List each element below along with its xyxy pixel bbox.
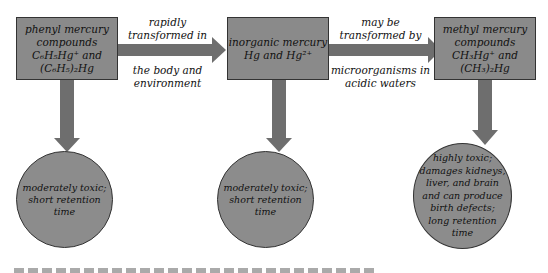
edge-label-top-1: rapidly transformed in [120,16,215,42]
node-line: compounds [455,36,516,49]
node-inorganic-mercury: inorganic mercury Hg and Hg²⁺ [227,17,329,80]
figure-caption-cropped [14,268,374,273]
outcome-line: moderately toxic; [224,182,308,194]
edge-label-bottom-1: the body and environment [120,64,215,90]
outcome-line: and can produce [422,190,503,203]
node-line: compounds [37,36,98,49]
node-line: Hg and Hg²⁺ [244,49,312,62]
label-line: acidic waters [328,77,433,90]
outcome-phenyl: moderately toxic; short retention time [16,151,113,248]
outcome-line: long retention [428,215,496,228]
outcome-line: highly toxic; [433,152,492,165]
label-line: rapidly [120,16,215,29]
outcome-line: short retention time [17,194,112,218]
node-line: (C₆H₅)₂Hg [40,62,94,75]
outcome-line: short retention time [218,194,313,218]
node-line: CH₃Hg⁺ and [452,49,518,62]
node-line: inorganic mercury [229,36,328,49]
outcome-line: liver, and brain [426,177,499,190]
outcome-line: time [452,227,474,240]
node-line: C₆H₅Hg⁺ and [32,49,102,62]
node-line: (CH₃)₂Hg [460,62,510,75]
label-line: may be [328,16,433,29]
node-line: methyl mercury [443,23,528,36]
label-line: environment [120,77,215,90]
outcome-line: damages kidneys, [420,165,506,178]
outcome-methyl: highly toxic; damages kidneys, liver, an… [413,143,512,249]
arrow-inorganic-down [266,80,292,152]
edge-label-top-2: may be transformed by [328,16,433,42]
outcome-inorganic: moderately toxic; short retention time [217,151,314,248]
node-phenyl-mercury: phenyl mercury compounds C₆H₅Hg⁺ and (C₆… [16,17,118,80]
outcome-line: moderately toxic; [23,182,107,194]
label-line: the body and [120,64,215,77]
node-methyl-mercury: methyl mercury compounds CH₃Hg⁺ and (CH₃… [434,17,536,80]
arrow-methyl-down [472,80,498,145]
label-line: transformed in [120,29,215,42]
edge-label-bottom-2: microorganisms in acidic waters [328,64,433,90]
outcome-line: birth defects; [430,202,495,215]
arrow-phenyl-down [54,80,80,152]
node-line: phenyl mercury [25,23,109,36]
label-line: transformed by [328,29,433,42]
label-line: microorganisms in [328,64,433,77]
